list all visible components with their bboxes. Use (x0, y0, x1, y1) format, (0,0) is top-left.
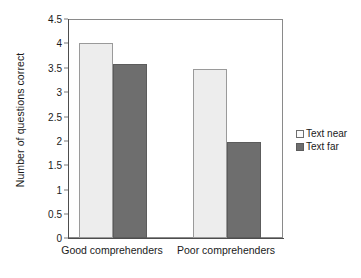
legend-label-text-far: Text far (306, 141, 339, 153)
y-tick-label-1.5: 1.5 (28, 160, 62, 171)
y-tick-label-4.5: 4.5 (28, 14, 62, 25)
y-axis-ticks: 4.5 4 3.5 3 2.5 2 1.5 1 0.5 0 (26, 0, 62, 278)
legend-item-text-near: Text near (296, 127, 347, 140)
y-tick-label-0.5: 0.5 (28, 209, 62, 220)
bar-chart-figure: Number of questions correct 4.5 4 3.5 3 … (0, 0, 361, 278)
y-tick-label-4: 4 (28, 38, 62, 49)
y-tick-label-2.5: 2.5 (28, 112, 62, 123)
y-axis-line (68, 19, 69, 239)
chart-legend: Text near Text far (296, 127, 347, 153)
x-axis-line (68, 238, 284, 239)
x-tick-label-good: Good comprehenders (52, 244, 172, 256)
y-tick-label-2: 2 (28, 136, 62, 147)
y-tick-label-0: 0 (28, 233, 62, 244)
y-tick-label-1: 1 (28, 185, 62, 196)
y-tick-label-3.5: 3.5 (28, 63, 62, 74)
plot-area (68, 19, 283, 238)
y-tick-label-3: 3 (28, 87, 62, 98)
legend-item-text-far: Text far (296, 140, 347, 153)
x-tick-label-poor: Poor comprehenders (166, 244, 286, 256)
legend-swatch-dark-icon (296, 143, 304, 151)
legend-label-text-near: Text near (306, 128, 347, 140)
legend-swatch-light-icon (296, 130, 304, 138)
